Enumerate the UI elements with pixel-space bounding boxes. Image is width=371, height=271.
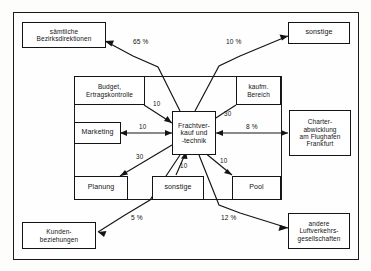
node-kundenbeziehungen-line-1: beziehungen <box>38 236 80 243</box>
node-bezirksdirektionen-line-0: sämtliche <box>35 28 94 35</box>
node-sonstige-inner-line-0: sonstige <box>162 184 193 192</box>
node-pool-line-0: Pool <box>247 184 266 192</box>
node-frachtverkauf-line-0: Frachtver- <box>176 122 212 130</box>
node-planung[interactable]: Planung <box>74 176 128 200</box>
node-marketing-line-0: Marketing <box>79 129 115 137</box>
node-budget-line-0: Budget, <box>84 83 135 90</box>
edge-label-budget: 10 <box>153 100 160 107</box>
node-frachtverkauf-center[interactable]: Frachtver- kauf und -technik <box>172 111 216 155</box>
edge-label-pool: 10 <box>220 157 227 164</box>
edge-label-kundenbeziehungen: 5 % <box>131 214 143 221</box>
edge-label-marketing: 10 <box>139 123 146 130</box>
edge-label-luftverkehr: 12 % <box>221 214 237 221</box>
node-bezirksdirektionen-line-1: Bezirksdirektionen <box>35 35 94 42</box>
diagram-canvas: sämtliche Bezirksdirektionen sonstige Ch… <box>0 0 371 271</box>
node-charter-line-1: abwicklung <box>298 126 343 133</box>
node-charter-line-2: am Flughafen <box>298 133 343 140</box>
node-marketing[interactable]: Marketing <box>74 122 121 144</box>
node-frachtverkauf-line-1: kauf und <box>176 129 212 137</box>
node-luftverkehr-line-1: Luftverkehrs- <box>296 227 343 234</box>
node-frachtverkauf-line-2: -technik <box>176 137 212 145</box>
edge-label-planung: 30 <box>136 153 143 160</box>
node-luftverkehr-line-2: gesellschaften <box>296 235 343 242</box>
node-kundenbeziehungen[interactable]: Kunden- beziehungen <box>22 222 96 249</box>
node-sonstige-top[interactable]: sonstige <box>288 22 350 44</box>
node-kaufm-bereich[interactable]: kaufm. Bereich <box>236 76 281 105</box>
node-charter-line-3: Frankfurt <box>298 140 343 147</box>
node-kaufm-bereich-line-1: Bereich <box>245 91 272 98</box>
node-luftverkehr[interactable]: andere Luftverkehrs- gesellschaften <box>288 213 350 249</box>
node-pool[interactable]: Pool <box>232 176 281 200</box>
node-charter-line-0: Charter- <box>298 118 343 125</box>
edge-label-sonstige-inner: 10 <box>180 162 187 169</box>
edge-label-sonstige-top: 10 % <box>226 38 242 45</box>
node-budget[interactable]: Budget, Ertragskontrolle <box>74 76 145 105</box>
node-charter[interactable]: Charter- abwicklung am Flughafen Frankfu… <box>289 110 351 156</box>
node-kaufm-bereich-line-0: kaufm. <box>245 83 272 90</box>
node-bezirksdirektionen[interactable]: sämtliche Bezirksdirektionen <box>22 22 106 48</box>
node-luftverkehr-line-0: andere <box>296 220 343 227</box>
node-sonstige-inner[interactable]: sonstige <box>152 176 204 200</box>
node-planung-line-0: Planung <box>86 184 117 192</box>
edge-label-charter: 8 % <box>246 123 258 130</box>
edge-label-kaufm: 30 <box>224 110 231 117</box>
node-kundenbeziehungen-line-0: Kunden- <box>38 228 80 235</box>
node-budget-line-1: Ertragskontrolle <box>84 91 135 98</box>
node-sonstige-top-line-0: sonstige <box>303 29 334 37</box>
edge-label-bezirksdirektionen: 65 % <box>133 38 149 45</box>
